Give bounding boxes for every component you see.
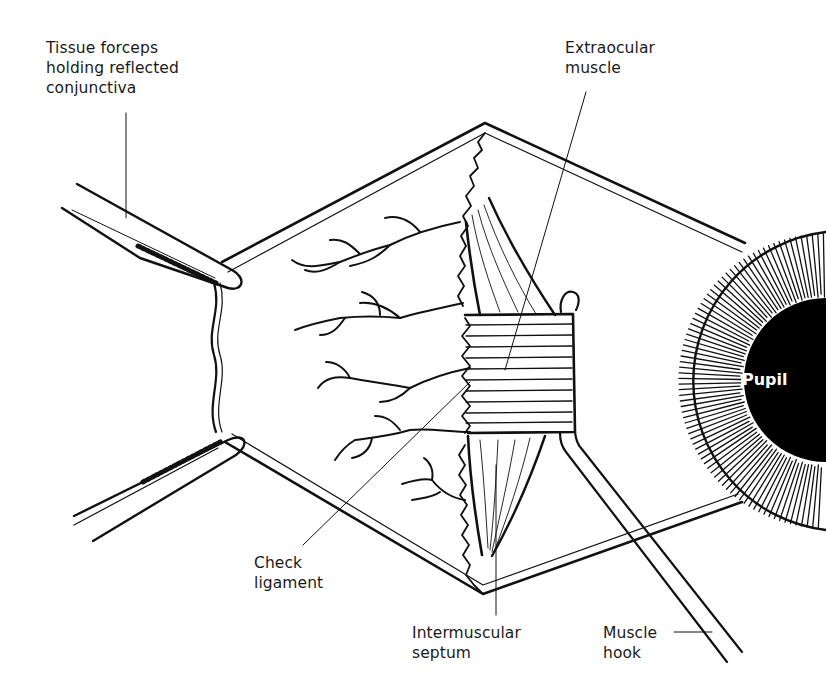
label-extraocular-muscle: Extraocular muscle <box>565 38 655 78</box>
leader-lines <box>126 92 712 632</box>
tissue-forceps-lower <box>74 438 244 541</box>
label-check-ligament: Check ligament <box>254 553 323 593</box>
blood-vessels <box>292 217 470 500</box>
extraocular-muscle <box>462 198 575 556</box>
torn-conjunctiva-edge <box>458 133 485 594</box>
label-muscle-hook: Muscle hook <box>603 623 657 663</box>
tissue-forceps-upper <box>62 184 241 289</box>
eye-surgery-illustration <box>0 0 826 688</box>
label-tissue-forceps: Tissue forceps holding reflected conjunc… <box>46 38 179 98</box>
label-pupil: Pupil <box>742 370 788 390</box>
label-intermuscular-septum: Intermuscular septum <box>412 623 521 663</box>
